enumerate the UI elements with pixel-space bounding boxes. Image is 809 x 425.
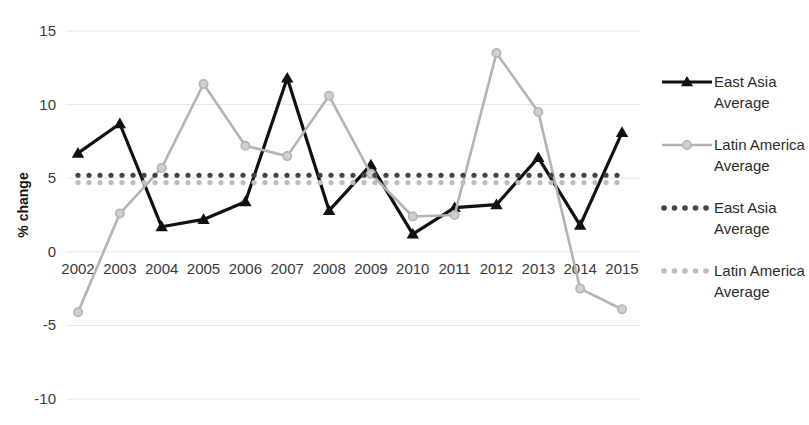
average-line-dot bbox=[229, 173, 234, 178]
average-line-dot bbox=[438, 173, 443, 178]
average-line-dot bbox=[174, 180, 179, 185]
y-axis-title: % change bbox=[15, 172, 31, 238]
x-tick-label: 2011 bbox=[438, 260, 470, 277]
average-line-dot bbox=[185, 173, 190, 178]
average-line-dot bbox=[581, 180, 586, 185]
average-line-dot bbox=[592, 180, 597, 185]
average-line-dot bbox=[108, 180, 113, 185]
x-tick-label: 2008 bbox=[312, 260, 345, 277]
average-line-dot bbox=[240, 173, 245, 178]
average-line-dot bbox=[306, 173, 311, 178]
average-line-dot bbox=[427, 173, 432, 178]
x-tick-label: 2009 bbox=[354, 260, 387, 277]
average-line-dot bbox=[284, 180, 289, 185]
legend-swatch-dot bbox=[703, 205, 709, 211]
average-line-dot bbox=[185, 180, 190, 185]
average-line-dot bbox=[350, 173, 355, 178]
legend-swatch-marker bbox=[683, 141, 691, 149]
x-tick-label: 2013 bbox=[522, 260, 555, 277]
average-line-dot bbox=[251, 173, 256, 178]
legend-swatch-dot bbox=[661, 205, 667, 211]
legend-label-line2: Average bbox=[714, 220, 770, 237]
average-line-dot bbox=[383, 180, 388, 185]
y-tick-label: -10 bbox=[34, 390, 56, 407]
legend-label-line1: East Asia bbox=[714, 73, 777, 90]
average-line-dot bbox=[207, 180, 212, 185]
legend-swatch-dot bbox=[703, 268, 709, 274]
average-line-dot bbox=[273, 180, 278, 185]
x-tick-label: 2007 bbox=[271, 260, 304, 277]
average-line-dot bbox=[592, 173, 597, 178]
average-line-dot bbox=[526, 173, 531, 178]
legend-swatch-dot bbox=[672, 205, 678, 211]
average-line-dot bbox=[196, 173, 201, 178]
average-line-dot bbox=[493, 180, 498, 185]
average-line-dot bbox=[559, 180, 564, 185]
average-line-dot bbox=[108, 173, 113, 178]
average-line-dot bbox=[163, 173, 168, 178]
data-point-marker bbox=[618, 305, 626, 313]
legend-label-line1: East Asia bbox=[714, 199, 777, 216]
average-line-dot bbox=[130, 173, 135, 178]
average-line-dot bbox=[460, 173, 465, 178]
average-line-dot bbox=[416, 173, 421, 178]
average-line-dot bbox=[130, 180, 135, 185]
average-line-dot bbox=[317, 173, 322, 178]
y-tick-label: 5 bbox=[48, 169, 56, 186]
average-line-dot bbox=[372, 180, 377, 185]
x-tick-label: 2003 bbox=[103, 260, 136, 277]
x-tick-label: 2002 bbox=[61, 260, 94, 277]
average-line-dot bbox=[515, 173, 520, 178]
average-line-dot bbox=[548, 180, 553, 185]
average-line-dot bbox=[119, 173, 124, 178]
average-line-dot bbox=[141, 180, 146, 185]
chart-page: 151050-5-10 2002200320042005200620072008… bbox=[0, 0, 809, 425]
legend-swatch-dot bbox=[682, 268, 688, 274]
average-line-dot bbox=[570, 173, 575, 178]
legend-swatch-dot bbox=[661, 268, 667, 274]
legend-swatch-dot bbox=[693, 205, 699, 211]
average-line-dot bbox=[482, 173, 487, 178]
average-line-dot bbox=[75, 173, 80, 178]
average-line-dot bbox=[295, 180, 300, 185]
data-point-marker bbox=[325, 92, 333, 100]
average-line-dot bbox=[86, 180, 91, 185]
average-line-dot bbox=[405, 180, 410, 185]
average-line-dot bbox=[361, 180, 366, 185]
legend-swatch-dot bbox=[693, 268, 699, 274]
average-line-dot bbox=[361, 173, 366, 178]
average-line-dot bbox=[152, 180, 157, 185]
data-point-marker bbox=[409, 212, 417, 220]
average-line-dot bbox=[141, 173, 146, 178]
x-tick-label: 2004 bbox=[145, 260, 178, 277]
average-line-dot bbox=[339, 173, 344, 178]
average-line-dot bbox=[614, 180, 619, 185]
average-line-dot bbox=[394, 180, 399, 185]
average-line-dot bbox=[163, 180, 168, 185]
data-point-marker bbox=[492, 49, 500, 57]
y-tick-label: 0 bbox=[48, 243, 56, 260]
legend-label-line2: Average bbox=[714, 157, 770, 174]
average-line-dot bbox=[427, 180, 432, 185]
average-line-dot bbox=[86, 173, 91, 178]
average-line-dot bbox=[438, 180, 443, 185]
average-line-dot bbox=[218, 173, 223, 178]
average-line-dot bbox=[218, 180, 223, 185]
data-point-marker bbox=[157, 164, 165, 172]
average-line-dot bbox=[537, 173, 542, 178]
average-line-dot bbox=[471, 173, 476, 178]
average-line-dot bbox=[119, 180, 124, 185]
average-line-dot bbox=[97, 173, 102, 178]
average-line-dot bbox=[449, 180, 454, 185]
average-line-dot bbox=[526, 180, 531, 185]
data-point-marker bbox=[450, 211, 458, 219]
average-line-dot bbox=[97, 180, 102, 185]
average-line-dot bbox=[405, 173, 410, 178]
y-tick-label: -5 bbox=[43, 316, 56, 333]
average-line-dot bbox=[229, 180, 234, 185]
average-line-dot bbox=[603, 180, 608, 185]
average-line-dot bbox=[75, 180, 80, 185]
legend-label-line1: Latin America bbox=[714, 136, 806, 153]
average-line-dot bbox=[328, 180, 333, 185]
average-line-dot bbox=[284, 173, 289, 178]
